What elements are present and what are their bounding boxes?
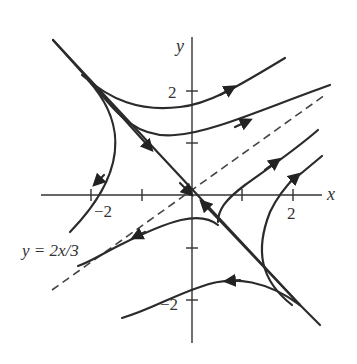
axes: [41, 37, 322, 343]
dashed-line-label: y = 2x/3: [20, 241, 79, 260]
x-tick-label-neg2: −2: [94, 202, 112, 221]
x-tick-label-2: 2: [287, 204, 296, 223]
y-tick-label-2: 2: [168, 83, 177, 102]
x-axis-label: x: [326, 184, 335, 204]
phase-portrait: y x 2 −2 −2 2 y = 2x/3: [0, 0, 357, 364]
y-tick-label-neg2: −2: [160, 295, 178, 314]
y-axis-label: y: [174, 36, 184, 56]
